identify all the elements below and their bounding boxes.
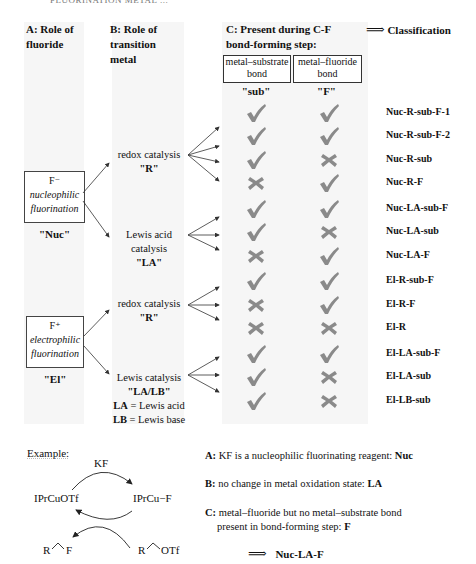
classification-label: El-R-sub-F — [386, 274, 434, 286]
check-icon — [318, 126, 340, 146]
substrate-r: R — [138, 543, 145, 557]
check-icon — [245, 126, 267, 146]
catalytic-cycle — [52, 472, 160, 549]
implies-arrow-icon: ⟹ — [248, 546, 267, 561]
classification-label: Nuc-R-sub-F-1 — [386, 106, 450, 118]
classification-label: Nuc-LA-sub — [386, 225, 439, 237]
check-icon — [318, 103, 340, 123]
arrow-nuc-to-la — [83, 201, 109, 237]
example-title: Example: — [27, 446, 69, 460]
classification-label: Nuc-LA-F — [386, 249, 430, 261]
complex-iprcuotf: IPrCuOTf — [34, 491, 79, 505]
classification-label: Nuc-R-sub — [386, 153, 432, 165]
check-icon — [245, 222, 267, 242]
arrow-el-to-redox — [84, 310, 109, 336]
substrate-otf: OTf — [161, 543, 179, 557]
check-icon — [245, 391, 267, 411]
check-icon — [245, 199, 267, 219]
check-icon — [245, 103, 267, 123]
check-icon — [245, 150, 267, 170]
explanation-b: B: no change in metal oxidation state: L… — [205, 478, 382, 489]
classification-label: El-R-F — [386, 298, 415, 310]
arrow-el-to-lewis — [84, 346, 109, 374]
classification-label: El-R — [386, 321, 406, 333]
product-f: F — [66, 543, 72, 557]
check-icon — [245, 344, 267, 364]
explanation-a: A: KF is a nucleophilic fluorinating rea… — [205, 450, 413, 461]
conclusion: ⟹ Nuc-LA-F — [248, 546, 324, 562]
check-icon — [318, 173, 340, 193]
explanation-c: C: metal–fluoride but no metal–substrate… — [205, 506, 402, 534]
cross-icon — [318, 318, 340, 338]
arrow-nuc-to-redox — [83, 163, 109, 193]
cross-icon — [318, 367, 340, 387]
cross-icon — [245, 246, 267, 266]
check-icon — [245, 271, 267, 291]
product-r: R — [43, 543, 50, 557]
classification-label: Nuc-R-F — [386, 176, 423, 188]
check-icon — [318, 344, 340, 364]
classification-label: El-LB-sub — [386, 394, 430, 406]
classification-label: El-LA-sub — [386, 370, 431, 382]
cross-icon — [318, 222, 340, 242]
check-icon — [318, 271, 340, 291]
check-icon — [318, 295, 340, 315]
classification-label: Nuc-R-sub-F-2 — [386, 129, 450, 141]
cross-icon — [318, 150, 340, 170]
check-icon — [245, 367, 267, 387]
classification-label: Nuc-LA-sub-F — [386, 202, 448, 214]
cross-icon — [318, 391, 340, 411]
check-icon — [318, 246, 340, 266]
check-icon — [318, 199, 340, 219]
cross-icon — [245, 173, 267, 193]
cross-icon — [245, 318, 267, 338]
complex-iprcuf: IPrCu−F — [133, 491, 172, 505]
classification-label: El-LA-sub-F — [386, 347, 440, 359]
reagent-kf: KF — [94, 456, 108, 470]
cross-icon — [245, 295, 267, 315]
